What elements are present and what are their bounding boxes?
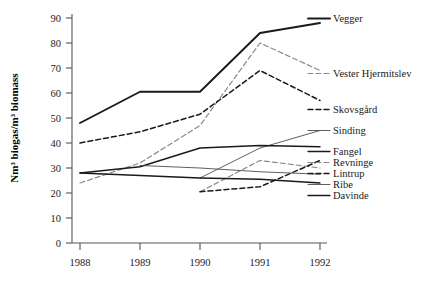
series-label-davinde: Davinde — [333, 190, 369, 201]
series-line-vester-hjermitslev — [80, 43, 320, 183]
y-tick-label: 80 — [51, 38, 62, 49]
series-lines — [80, 23, 320, 192]
x-tick-label: 1990 — [190, 257, 211, 268]
series-line-skovsg-rd — [80, 71, 320, 144]
y-tick-label: 90 — [51, 13, 62, 24]
series-label-ribe: Ribe — [333, 179, 353, 190]
x-tick-label: 1989 — [130, 257, 151, 268]
series-label-skovsg-rd: Skovsgård — [333, 104, 378, 115]
x-tick-label: 1991 — [250, 257, 271, 268]
y-tick-label: 60 — [51, 88, 62, 99]
y-tick-label: 40 — [51, 138, 62, 149]
axes — [72, 14, 327, 243]
y-axis-ticks: 0102030405060708090 — [51, 13, 73, 249]
series-label-sinding: Sinding — [333, 125, 366, 136]
y-tick-label: 0 — [56, 238, 61, 249]
series-label-vester-hjermitslev: Vester Hjermitslev — [333, 68, 412, 79]
series-labels: VeggerVester HjermitslevSkovsgårdSinding… — [333, 13, 412, 201]
series-line-vegger — [80, 23, 320, 123]
chart-canvas: 0102030405060708090 19881989199019911992… — [0, 0, 422, 285]
x-tick-label: 1992 — [310, 257, 331, 268]
series-line-sinding — [200, 131, 320, 179]
y-axis-title: Nm³ biogas/m³ biomass — [8, 73, 20, 183]
line-chart: 0102030405060708090 19881989199019911992… — [0, 0, 422, 285]
y-tick-label: 70 — [51, 63, 62, 74]
y-tick-label: 50 — [51, 113, 62, 124]
series-label-fangel: Fangel — [333, 146, 362, 157]
y-tick-label: 10 — [51, 213, 62, 224]
series-line-lintrup — [200, 161, 320, 192]
series-line-davinde — [80, 173, 320, 183]
y-tick-label: 30 — [51, 163, 62, 174]
y-tick-label: 20 — [51, 188, 62, 199]
series-label-vegger: Vegger — [333, 13, 363, 24]
series-label-revninge: Revninge — [333, 157, 374, 168]
x-tick-label: 1988 — [70, 257, 91, 268]
series-label-lintrup: Lintrup — [333, 168, 365, 179]
x-axis-ticks: 19881989199019911992 — [70, 243, 331, 268]
series-line-fangel — [80, 146, 320, 174]
series-line-ribe — [140, 166, 320, 175]
label-leader-lines — [308, 19, 330, 196]
